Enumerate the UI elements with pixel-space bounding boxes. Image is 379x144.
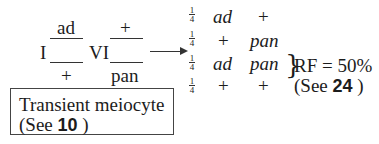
chrom2-bottom-line [110,62,143,63]
progeny-allele-b: pan [250,54,279,73]
progeny-allele-a: ad [213,7,232,26]
rf-reference: (See 24 ) [294,76,364,96]
chrom1-top-allele: ad [57,18,75,37]
chrom1-label: I [40,43,46,62]
progeny-allele-a: + [218,76,229,95]
progeny-allele-b: + [258,7,269,26]
chrom1-top-line [50,38,83,39]
fraction: 14 [188,6,196,23]
chrom2-top-allele: + [120,18,131,37]
transient-meiocyte-box: Transient meiocyte (See 10 ) [10,88,174,135]
fraction: 14 [188,54,196,71]
arrow-shaft [150,51,184,52]
arrow-icon [180,47,188,55]
chrom1-bottom-line [50,62,83,63]
progeny-allele-b: pan [250,31,279,50]
chrom1-bottom-allele: + [61,66,72,85]
box-line1: Transient meiocyte [19,95,164,114]
rf-ref: 24 [333,76,353,96]
chrom2-top-line [110,38,143,39]
box-line2: (See 10 ) [19,115,89,135]
box-ref: 10 [58,115,78,135]
chrom2-label: VI [89,43,109,62]
progeny-allele-a: + [218,31,229,50]
rf-value: RF = 50% [294,56,372,75]
progeny-allele-b: + [258,76,269,95]
progeny-allele-a: ad [213,54,232,73]
fraction: 14 [188,77,196,94]
fraction: 14 [188,30,196,47]
chrom2-bottom-allele: pan [111,66,138,85]
